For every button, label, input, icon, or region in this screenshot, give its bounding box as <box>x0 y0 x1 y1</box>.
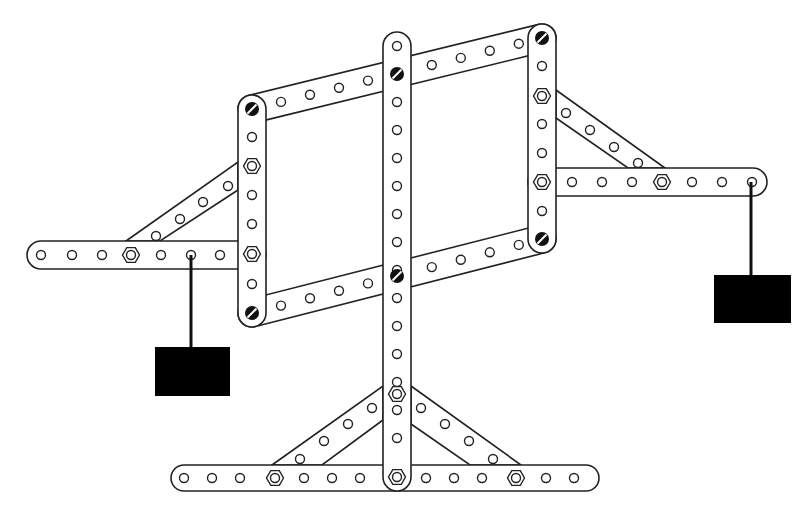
hole-icon <box>427 263 436 272</box>
hole-icon <box>216 251 225 260</box>
hole-icon <box>393 182 402 191</box>
hole-icon <box>568 178 577 187</box>
hole-icon <box>248 280 257 289</box>
left-weight <box>155 255 230 396</box>
hole-icon <box>199 198 208 207</box>
hole-icon <box>157 251 166 260</box>
hole-icon <box>356 474 365 483</box>
hole-icon <box>335 83 344 92</box>
hole-icon <box>514 240 523 249</box>
hex-nut-icon <box>267 471 284 486</box>
hole-icon <box>248 191 257 200</box>
right-arm-brace <box>556 90 665 168</box>
slotted-bolt-icon <box>535 31 549 45</box>
hole-icon <box>688 178 697 187</box>
hole-icon <box>277 301 286 310</box>
hole-icon <box>320 437 329 446</box>
hole-icon <box>489 455 498 464</box>
hole-icon <box>393 434 402 443</box>
hole-icon <box>364 76 373 85</box>
central-upright <box>383 32 411 491</box>
weight-block <box>714 275 791 323</box>
hole-icon <box>393 378 402 387</box>
slotted-bolt-icon <box>535 232 549 246</box>
base-left-brace <box>272 386 383 465</box>
slotted-bolt-icon <box>245 102 259 116</box>
hex-nut-icon <box>244 159 261 174</box>
hole-icon <box>538 62 547 71</box>
hole-icon <box>570 474 579 483</box>
hole-icon <box>328 474 337 483</box>
hole-icon <box>485 248 494 257</box>
hole-icon <box>296 455 305 464</box>
hole-icon <box>176 215 185 224</box>
hole-icon <box>248 220 257 229</box>
hole-icon <box>393 294 402 303</box>
hole-icon <box>224 182 233 191</box>
right-upright <box>528 24 556 253</box>
base-right-brace <box>411 386 521 465</box>
left-arm-brace <box>126 162 238 241</box>
hole-icon <box>152 232 161 241</box>
hole-icon <box>300 474 309 483</box>
hole-icon <box>98 251 107 260</box>
hole-icon <box>456 53 465 62</box>
hole-icon <box>306 90 315 99</box>
hex-nut-icon <box>508 471 525 486</box>
hole-icon <box>306 294 315 303</box>
hole-icon <box>37 251 46 260</box>
hole-icon <box>236 474 245 483</box>
hex-nut-icon <box>534 175 551 190</box>
hole-icon <box>277 97 286 106</box>
hole-icon <box>393 210 402 219</box>
hole-icon <box>393 322 402 331</box>
hole-icon <box>538 120 547 129</box>
hex-nut-icon <box>389 387 406 402</box>
weight-block <box>155 347 230 396</box>
right-weight <box>714 182 791 323</box>
hole-icon <box>718 178 727 187</box>
hole-icon <box>393 238 402 247</box>
hole-icon <box>514 39 523 48</box>
hole-icon <box>364 279 373 288</box>
hole-icon <box>427 60 436 69</box>
hole-icon <box>542 474 551 483</box>
hex-nut-icon <box>534 89 551 104</box>
hex-nut-icon <box>389 470 406 485</box>
hole-icon <box>485 46 494 55</box>
hole-icon <box>393 126 402 135</box>
hole-icon <box>634 159 643 168</box>
slotted-bolt-icon <box>390 67 404 81</box>
hole-icon <box>248 133 257 142</box>
strip-layer <box>27 21 767 491</box>
hole-icon <box>610 143 619 152</box>
hole-icon <box>450 474 459 483</box>
hole-icon <box>335 286 344 295</box>
hole-icon <box>586 126 595 135</box>
hole-icon <box>456 255 465 264</box>
hex-nut-icon <box>654 175 671 190</box>
hole-icon <box>417 404 426 413</box>
hole-icon <box>562 109 571 118</box>
hole-icon <box>68 251 77 260</box>
balance-diagram <box>0 0 807 520</box>
hex-nut-icon <box>244 247 261 262</box>
hole-icon <box>393 42 402 51</box>
left-upright <box>238 95 266 327</box>
hole-icon <box>368 404 377 413</box>
hole-icon <box>208 474 217 483</box>
hole-icon <box>344 420 353 429</box>
hole-icon <box>465 437 474 446</box>
slotted-bolt-icon <box>245 306 259 320</box>
hole-icon <box>441 420 450 429</box>
hole-icon <box>393 406 402 415</box>
right-arm <box>528 168 767 196</box>
hole-icon <box>538 207 547 216</box>
hex-nut-icon <box>123 248 140 263</box>
hole-icon <box>538 149 547 158</box>
hole-icon <box>393 98 402 107</box>
hole-icon <box>598 178 607 187</box>
hole-icon <box>393 350 402 359</box>
hole-icon <box>478 474 487 483</box>
hole-icon <box>628 178 637 187</box>
